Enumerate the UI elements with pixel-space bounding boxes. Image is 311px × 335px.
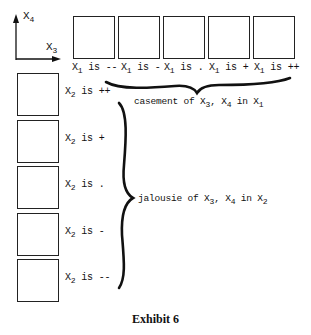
column-box-3 [163,16,205,59]
row-label-3: X2 is . [65,179,104,191]
casement-brace [106,78,290,93]
column-label-2: X1 is - [121,62,160,74]
exhibit-caption: Exhibit 6 [0,312,311,327]
column-box-1 [73,16,115,59]
row-box-2 [17,120,59,163]
column-label-1: X1 is -- [72,62,117,74]
row-box-5 [17,259,59,302]
x3-axis-arrow [16,56,61,62]
column-label-3: X1 is . [164,62,203,74]
row-box-1 [17,73,59,116]
column-label-4: X1 is + [209,62,248,74]
row-label-5: X2 is -- [65,272,110,284]
row-label-2: X2 is + [65,133,104,145]
column-box-4 [208,16,250,59]
column-box-5 [253,16,295,59]
column-box-2 [118,16,160,59]
x4-axis-label: X4 [23,10,34,22]
row-label-4: X2 is - [65,226,104,238]
casement-note: casement of X3, X4 in X1 [134,96,263,108]
row-box-4 [17,213,59,256]
row-label-1: X2 is ++ [65,86,110,98]
x4-axis-arrow [13,14,19,60]
jalousie-brace [119,103,133,288]
column-label-5: X1 is ++ [254,62,299,74]
jalousie-note: jalousie of X3, X4 in X2 [138,193,267,205]
x3-axis-label: X3 [46,41,57,53]
row-box-3 [17,166,59,209]
